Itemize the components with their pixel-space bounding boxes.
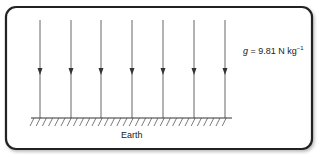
diagram-canvas (0, 0, 327, 158)
field-strength-label: g = 9.81 N kg−1 (243, 45, 304, 56)
frame-border (6, 7, 312, 149)
earth-label: Earth (121, 130, 143, 140)
